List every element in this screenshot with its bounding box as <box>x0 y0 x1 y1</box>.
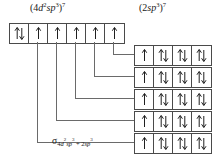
single-electron-arrow <box>48 24 67 43</box>
ligand-orbital-box-3-1[interactable] <box>154 112 173 131</box>
sigma-subscript: 4d2sp3 + 2sp3 <box>57 140 93 147</box>
metal-orbital-box-1[interactable] <box>29 24 48 43</box>
paired-electron-arrows <box>173 90 192 109</box>
single-electron-arrow <box>29 24 48 43</box>
ligand-orbital-box-0-3[interactable] <box>192 46 211 65</box>
paired-electron-arrows <box>192 46 211 65</box>
paired-electron-arrows <box>173 112 192 131</box>
ligand-orbital-row-1 <box>134 67 212 88</box>
paired-electron-arrows <box>154 112 173 131</box>
sigma-bond-connector-4-to-row-1 <box>95 42 135 77</box>
sigma-bond-connector-1-to-row-4 <box>38 42 135 143</box>
paired-electron-arrows <box>192 112 211 131</box>
paired-electron-arrows <box>192 134 211 153</box>
ligand-orbital-box-4-0[interactable] <box>135 134 154 153</box>
ligand-orbital-box-3-3[interactable] <box>192 112 211 131</box>
sigma-bond-connector-3-to-row-2 <box>76 42 135 99</box>
paired-electron-arrows <box>173 134 192 153</box>
ligand-orbital-box-2-2[interactable] <box>173 90 192 109</box>
ligand-orbital-box-0-1[interactable] <box>154 46 173 65</box>
paired-electron-arrows <box>154 68 173 87</box>
ligand-orbital-box-4-3[interactable] <box>192 134 211 153</box>
ligand-orbital-box-1-1[interactable] <box>154 68 173 87</box>
sigma-bond-label: σ4d2sp3 + 2sp3 <box>52 136 93 146</box>
paired-electron-arrows <box>154 90 173 109</box>
ligand-orbital-row-4 <box>134 133 212 154</box>
paired-electron-arrows <box>192 68 211 87</box>
ligand-orbital-box-0-2[interactable] <box>173 46 192 65</box>
paired-electron-arrows <box>192 90 211 109</box>
sigma-sub-right-sp-exp: 3 <box>90 137 93 142</box>
ligand-orbital-row-2 <box>134 89 212 110</box>
orbital-diagram: (4d2sp3)7 (2sp3)7 σ4d2sp3 + 2sp3 <box>0 0 216 158</box>
ligand-orbital-box-2-1[interactable] <box>154 90 173 109</box>
single-electron-arrow <box>67 24 86 43</box>
sigma-plus: + <box>76 140 80 147</box>
sigma-sub-left-d-exp: 2 <box>64 137 67 142</box>
paired-electron-arrows <box>173 46 192 65</box>
ligand-orbital-box-1-0[interactable] <box>135 68 154 87</box>
ligand-orbital-box-1-3[interactable] <box>192 68 211 87</box>
single-electron-arrow <box>135 134 154 153</box>
ligand-orbital-box-2-3[interactable] <box>192 90 211 109</box>
single-electron-arrow <box>135 90 154 109</box>
metal-orbital-box-3[interactable] <box>67 24 86 43</box>
single-electron-arrow <box>86 24 105 43</box>
single-electron-arrow <box>135 112 154 131</box>
paired-electron-arrows <box>154 46 173 65</box>
paired-electron-arrows <box>10 24 29 43</box>
metal-orbital-box-5[interactable] <box>105 24 124 43</box>
right-label-electron-count: 7 <box>163 1 166 8</box>
single-electron-arrow <box>105 24 124 43</box>
paired-electron-arrows <box>173 68 192 87</box>
single-electron-arrow <box>135 68 154 87</box>
metal-orbital-box-2[interactable] <box>48 24 67 43</box>
ligand-orbital-row-0 <box>134 45 212 66</box>
ligand-orbital-box-4-2[interactable] <box>173 134 192 153</box>
left-orbital-label: (4d2sp3)7 <box>30 2 65 13</box>
ligand-orbital-box-1-2[interactable] <box>173 68 192 87</box>
sigma-sub-left-sp-exp: 3 <box>72 137 75 142</box>
sigma-bond-connector-2-to-row-3 <box>57 42 135 121</box>
ligand-orbital-box-0-0[interactable] <box>135 46 154 65</box>
single-electron-arrow <box>135 46 154 65</box>
right-orbital-label: (2sp3)7 <box>139 2 166 13</box>
ligand-orbital-box-2-0[interactable] <box>135 90 154 109</box>
ligand-orbital-box-3-0[interactable] <box>135 112 154 131</box>
left-label-electron-count: 7 <box>62 1 65 8</box>
metal-orbital-box-4[interactable] <box>86 24 105 43</box>
metal-hybrid-orbital-row <box>9 23 125 44</box>
ligand-orbital-row-3 <box>134 111 212 132</box>
metal-orbital-box-0[interactable] <box>10 24 29 43</box>
ligand-orbital-box-3-2[interactable] <box>173 112 192 131</box>
paired-electron-arrows <box>154 134 173 153</box>
ligand-orbital-box-4-1[interactable] <box>154 134 173 153</box>
